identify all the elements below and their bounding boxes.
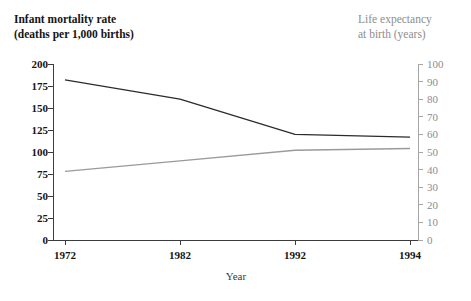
y-right-tick-20: 20	[427, 199, 438, 210]
y-right-tick-0: 0	[427, 235, 433, 246]
y-right-tick-10: 10	[427, 217, 438, 228]
x-axis-title: Year	[226, 270, 246, 282]
y-left-tick-50: 50	[10, 191, 48, 202]
y-left-tick-75: 75	[10, 169, 48, 180]
series-line-0	[65, 80, 410, 137]
y-left-tick-150: 150	[10, 103, 48, 114]
x-tick-1992: 1992	[284, 250, 306, 261]
x-tick-1982: 1982	[169, 250, 191, 261]
y-right-tick-30: 30	[427, 182, 438, 193]
y-right-tick-70: 70	[427, 111, 438, 122]
y-left-tick-200: 200	[10, 59, 48, 70]
y-right-tick-80: 80	[427, 94, 438, 105]
x-tick-1994: 1994	[399, 250, 421, 261]
y-right-tick-100: 100	[427, 59, 444, 70]
chart-figure: Infant mortality rate (deaths per 1,000 …	[0, 0, 471, 301]
y-left-tick-100: 100	[10, 147, 48, 158]
y-right-tick-60: 60	[427, 129, 438, 140]
y-left-tick-175: 175	[10, 81, 48, 92]
y-right-tick-40: 40	[427, 164, 438, 175]
y-left-tick-25: 25	[10, 213, 48, 224]
y-right-tick-90: 90	[427, 76, 438, 87]
series-line-1	[65, 148, 410, 171]
y-right-tick-50: 50	[427, 147, 438, 158]
y-left-tick-0: 0	[10, 235, 48, 246]
y-left-tick-125: 125	[10, 125, 48, 136]
x-tick-1972: 1972	[54, 250, 76, 261]
